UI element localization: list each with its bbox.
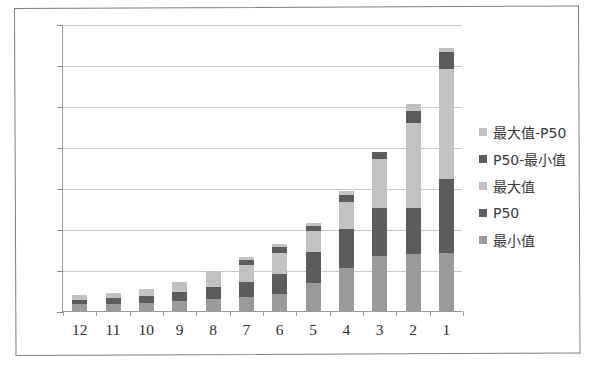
bar-segment[interactable]: [439, 253, 454, 311]
bar-segment[interactable]: [172, 282, 187, 292]
bar-segment[interactable]: [306, 252, 321, 282]
chart-screenshot: 020 00040 00060 00080 000100 000120 0001…: [0, 0, 591, 365]
x-axis-label: 11: [96, 321, 130, 339]
bar-segment[interactable]: [172, 292, 187, 301]
y-axis-tick: [57, 230, 63, 231]
bar-segment[interactable]: [206, 299, 221, 311]
bar-segment[interactable]: [439, 52, 454, 69]
legend-item[interactable]: P50-最小值: [479, 145, 585, 172]
x-axis-tick: [263, 311, 264, 316]
bar-segment[interactable]: [72, 300, 87, 305]
bar-stack[interactable]: [206, 271, 221, 311]
x-axis-label: 4: [329, 321, 363, 339]
bar-segment[interactable]: [306, 223, 321, 226]
bar-segment[interactable]: [406, 208, 421, 254]
legend-item[interactable]: P50: [479, 199, 585, 226]
legend-label: P50: [493, 205, 519, 221]
bar-segment[interactable]: [206, 271, 221, 275]
chart-legend: 最大值-P50P50-最小值最大值P50最小值: [479, 118, 585, 253]
bar-segment[interactable]: [206, 275, 221, 288]
bar-segment[interactable]: [439, 69, 454, 179]
bar-segment[interactable]: [372, 159, 387, 208]
bar-segment[interactable]: [206, 287, 221, 298]
bar-segment[interactable]: [139, 296, 154, 303]
legend-item[interactable]: 最大值-P50: [479, 118, 585, 145]
bar-segment[interactable]: [239, 297, 254, 311]
legend-label: P50-最小值: [493, 149, 566, 169]
bar-segment[interactable]: [372, 208, 387, 256]
bar-segment[interactable]: [339, 268, 354, 311]
gridline: [63, 271, 462, 272]
bar-stack[interactable]: [239, 257, 254, 311]
bar-segment[interactable]: [272, 294, 287, 311]
bar-segment[interactable]: [406, 123, 421, 208]
y-axis-tick: [57, 25, 63, 26]
bar-segment[interactable]: [272, 253, 287, 274]
gridline: [63, 230, 462, 231]
bar-stack[interactable]: [106, 293, 121, 311]
bar-stack[interactable]: [372, 152, 387, 311]
bar-segment[interactable]: [306, 226, 321, 232]
bar-segment[interactable]: [339, 202, 354, 229]
bar-segment[interactable]: [372, 256, 387, 311]
bar-stack[interactable]: [439, 48, 454, 311]
bar-chart: 020 00040 00060 00080 000100 000120 0001…: [0, 0, 591, 365]
bar-stack[interactable]: [272, 244, 287, 311]
x-axis-label: 2: [396, 321, 430, 339]
x-axis-tick: [463, 311, 464, 316]
bar-stack[interactable]: [72, 295, 87, 311]
bar-segment[interactable]: [406, 111, 421, 123]
legend-item[interactable]: 最小值: [479, 226, 585, 253]
bar-segment[interactable]: [239, 265, 254, 282]
bar-segment[interactable]: [139, 289, 154, 296]
bar-segment[interactable]: [172, 301, 187, 311]
bar-segment[interactable]: [272, 274, 287, 295]
bar-segment[interactable]: [306, 283, 321, 311]
gridline: [63, 25, 462, 26]
bar-segment[interactable]: [439, 48, 454, 53]
bar-stack[interactable]: [339, 191, 354, 311]
bar-segment[interactable]: [306, 231, 321, 252]
legend-label: 最大值: [493, 176, 535, 196]
bar-segment[interactable]: [339, 229, 354, 269]
x-axis-tick: [130, 311, 131, 316]
bar-segment[interactable]: [239, 282, 254, 297]
bar-segment[interactable]: [72, 304, 87, 311]
bar-segment[interactable]: [339, 195, 354, 202]
bar-stack[interactable]: [139, 289, 154, 311]
bar-stack[interactable]: [172, 282, 187, 311]
y-axis-tick: [57, 148, 63, 149]
bar-segment[interactable]: [106, 298, 121, 303]
legend-swatch-icon: [479, 155, 487, 163]
bar-segment[interactable]: [106, 293, 121, 298]
bar-stack[interactable]: [406, 104, 421, 311]
bar-segment[interactable]: [406, 104, 421, 111]
bar-stack[interactable]: [306, 223, 321, 311]
x-axis-tick: [163, 311, 164, 316]
bar-segment[interactable]: [106, 304, 121, 311]
x-axis-tick: [196, 311, 197, 316]
legend-label: 最小值: [493, 230, 535, 250]
bar-segment[interactable]: [406, 254, 421, 311]
x-axis-tick: [396, 311, 397, 316]
y-axis-tick: [57, 107, 63, 108]
x-axis-label: 9: [163, 321, 197, 339]
legend-label: 最大值-P50: [493, 122, 566, 142]
bar-segment[interactable]: [139, 303, 154, 311]
bar-segment[interactable]: [239, 257, 254, 260]
legend-swatch-icon: [479, 128, 487, 136]
x-axis-label: 10: [129, 321, 163, 339]
bar-segment[interactable]: [439, 179, 454, 253]
bar-segment[interactable]: [72, 295, 87, 300]
gridline: [63, 148, 462, 149]
bar-segment[interactable]: [239, 260, 254, 265]
x-axis-label: 12: [63, 321, 97, 339]
legend-swatch-icon: [479, 182, 487, 190]
bar-segment[interactable]: [272, 244, 287, 247]
bar-segment[interactable]: [272, 247, 287, 252]
y-axis-tick: [57, 189, 63, 190]
legend-swatch-icon: [479, 236, 487, 244]
bar-segment[interactable]: [339, 191, 354, 194]
legend-item[interactable]: 最大值: [479, 172, 585, 199]
bar-segment[interactable]: [372, 152, 387, 159]
